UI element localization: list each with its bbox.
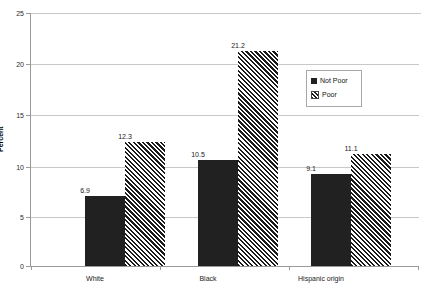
xtick-mark-3 — [418, 266, 419, 270]
data-label-black-poor: 21.2 — [218, 42, 258, 50]
category-label-white: White — [55, 275, 135, 283]
bar-white-not-poor[interactable] — [85, 196, 125, 266]
legend-item-not-poor[interactable]: Not Poor — [311, 76, 348, 86]
ytick-label-20: 20 — [0, 61, 24, 68]
y-axis-title: Percent — [0, 126, 4, 152]
legend-label-poor: Poor — [322, 91, 337, 99]
ytick-label-15: 15 — [0, 112, 24, 119]
bar-hispanic-not-poor[interactable] — [311, 174, 351, 266]
category-label-black: Black — [168, 275, 248, 283]
data-label-hispanic-not-poor: 9.1 — [291, 165, 331, 173]
x-axis-line — [30, 266, 418, 267]
bar-white-poor[interactable] — [125, 142, 165, 266]
data-label-white-not-poor: 6.9 — [65, 187, 105, 195]
legend-label-not-poor: Not Poor — [320, 77, 348, 85]
bar-black-poor[interactable] — [238, 51, 278, 266]
data-label-hispanic-poor: 11.1 — [331, 145, 371, 153]
ytick-label-10: 10 — [0, 164, 24, 171]
category-label-hispanic-origin: Hispanic origin — [281, 275, 361, 283]
legend-swatch-hatch-icon — [311, 91, 319, 99]
bar-chart: 25 20 15 10 5 0 Percent 6.9 12.3 10.5 21… — [0, 0, 432, 292]
bar-hispanic-poor[interactable] — [351, 154, 391, 266]
ytick-label-0: 0 — [0, 263, 24, 270]
legend-swatch-solid-icon — [311, 78, 317, 84]
ytick-label-5: 5 — [0, 214, 24, 221]
legend: Not Poor Poor — [306, 70, 362, 107]
bars-layer — [30, 13, 420, 266]
legend-item-poor[interactable]: Poor — [311, 90, 337, 100]
xtick-mark-2 — [289, 266, 290, 270]
data-label-white-poor: 12.3 — [105, 133, 145, 141]
ytick-label-25: 25 — [0, 10, 24, 17]
xtick-mark-0 — [31, 266, 32, 270]
bar-black-not-poor[interactable] — [198, 160, 238, 266]
data-label-black-not-poor: 10.5 — [178, 151, 218, 159]
xtick-mark-1 — [160, 266, 161, 270]
